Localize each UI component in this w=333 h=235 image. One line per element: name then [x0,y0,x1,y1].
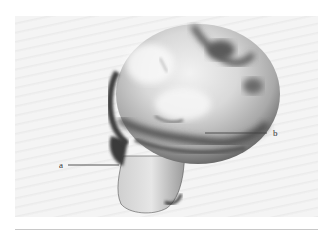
femoral-head-specimen-illustration [15,16,318,217]
label-a: a [59,161,63,170]
label-b: b [273,129,278,138]
specimen-photo: a b [15,16,318,217]
bottom-divider [15,229,318,230]
